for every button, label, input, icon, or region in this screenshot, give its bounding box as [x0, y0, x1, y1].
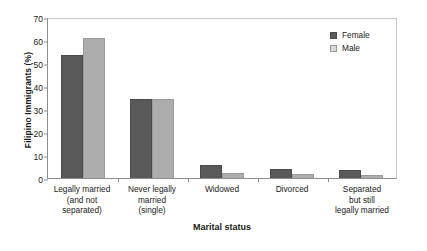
- x-tick-mark: [188, 178, 189, 182]
- x-category-label-line: separated): [48, 205, 116, 216]
- bar-female: [339, 170, 361, 178]
- legend-swatch-female-icon: [330, 32, 337, 39]
- bar-male: [152, 99, 174, 178]
- legend-item-male: Male: [330, 43, 370, 53]
- bar-male: [222, 173, 244, 178]
- legend-item-female: Female: [330, 30, 370, 40]
- x-category-label-line: Legally married: [48, 184, 116, 195]
- bar-female: [200, 165, 222, 178]
- x-category-label: Never legallymarried(single): [117, 184, 187, 216]
- bar-male: [83, 38, 105, 178]
- bar-male: [361, 175, 383, 178]
- bar-chart-figure: Filipino Immigrants (%) 010203040506070 …: [0, 0, 427, 251]
- x-category-label: Separatedbut stilllegally married: [327, 184, 397, 216]
- x-tick-mark: [118, 178, 119, 182]
- x-axis-category-labels: Legally married(and notseparated)Never l…: [47, 184, 397, 216]
- y-tick-mark: [44, 180, 48, 181]
- x-category-label-line: Widowed: [188, 184, 256, 195]
- bar-group: [257, 19, 327, 178]
- bar-group: [48, 19, 118, 178]
- x-category-label: Legally married(and notseparated): [47, 184, 117, 216]
- x-category-label-line: Separated: [328, 184, 396, 195]
- x-category-label-line: Never legally: [118, 184, 186, 195]
- legend-swatch-male-icon: [330, 45, 337, 52]
- bar-group: [187, 19, 257, 178]
- bar-male: [292, 174, 314, 178]
- chart-legend: Female Male: [330, 30, 370, 56]
- x-category-label-line: Divorced: [258, 184, 326, 195]
- y-axis-title: Filipino Immigrants (%): [23, 20, 33, 180]
- x-category-label: Divorced: [257, 184, 327, 216]
- x-tick-mark: [258, 178, 259, 182]
- x-category-label-line: (and not: [48, 195, 116, 206]
- x-category-label-line: but still: [328, 195, 396, 206]
- x-category-label-line: married: [118, 195, 186, 206]
- bar-female: [130, 99, 152, 178]
- x-axis-title: Marital status: [47, 222, 397, 232]
- bar-female: [270, 169, 292, 178]
- x-category-label-line: legally married: [328, 205, 396, 216]
- bar-female: [61, 55, 83, 178]
- x-category-label-line: (single): [118, 205, 186, 216]
- legend-label-male: Male: [342, 43, 360, 53]
- bar-group: [118, 19, 188, 178]
- x-tick-mark: [328, 178, 329, 182]
- x-category-label: Widowed: [187, 184, 257, 216]
- legend-label-female: Female: [342, 30, 370, 40]
